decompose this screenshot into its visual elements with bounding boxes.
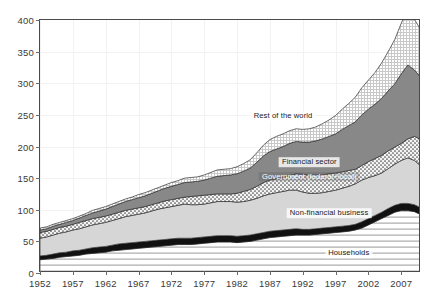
series-label: Non-financial business — [287, 208, 372, 218]
x-axis-tick-mark — [73, 271, 74, 275]
series-label: Financial sector — [279, 158, 340, 168]
series-label: Government (federal+local) — [259, 172, 360, 182]
y-axis-tick-mark — [36, 52, 40, 53]
y-axis-tick-label: 50 — [23, 236, 34, 247]
x-axis-tick-mark — [401, 271, 402, 275]
y-axis-tick-label: 200 — [18, 141, 34, 152]
x-axis-tick-label: 1967 — [128, 278, 150, 289]
y-axis-tick-mark — [36, 241, 40, 242]
x-axis-tick-label: 1987 — [259, 278, 281, 289]
y-axis-tick-mark — [36, 210, 40, 211]
x-axis-tick-label: 1957 — [62, 278, 84, 289]
x-axis-tick-mark — [237, 271, 238, 275]
plot-area: 050100150200250300350400 195219571962196… — [39, 19, 420, 272]
y-axis-tick-mark — [36, 147, 40, 148]
x-axis-tick-label: 1962 — [95, 278, 117, 289]
y-axis-tick-label: 350 — [18, 46, 34, 57]
y-axis-tick-label: 400 — [18, 15, 34, 26]
x-axis-tick-mark — [204, 271, 205, 275]
x-axis-tick-label: 2002 — [357, 278, 379, 289]
y-axis-tick-label: 100 — [18, 204, 34, 215]
x-axis-tick-mark — [368, 271, 369, 275]
stacked-area-series — [40, 20, 419, 271]
x-axis-tick-mark — [336, 271, 337, 275]
y-axis-tick-mark — [36, 83, 40, 84]
y-axis-tick-mark — [36, 115, 40, 116]
chart-figure: 050100150200250300350400 195219571962196… — [0, 0, 438, 299]
series-label: Rest of the world — [251, 111, 316, 121]
x-axis-tick-mark — [171, 271, 172, 275]
x-axis-tick-label: 2007 — [390, 278, 412, 289]
x-axis-tick-mark — [139, 271, 140, 275]
y-axis-tick-mark — [36, 20, 40, 21]
x-axis-tick-mark — [270, 271, 271, 275]
y-axis-tick-label: 250 — [18, 109, 34, 120]
y-axis-tick-label: 300 — [18, 78, 34, 89]
x-axis-tick-label: 1977 — [193, 278, 215, 289]
x-axis-tick-mark — [106, 271, 107, 275]
x-axis-tick-label: 1997 — [325, 278, 347, 289]
series-clip — [40, 20, 419, 271]
x-axis-tick-label: 1982 — [226, 278, 248, 289]
x-axis-tick-label: 1972 — [160, 278, 182, 289]
y-axis-tick-mark — [36, 178, 40, 179]
x-axis-tick-label: 1992 — [292, 278, 314, 289]
x-axis-tick-mark — [40, 271, 41, 275]
x-axis-tick-mark — [303, 271, 304, 275]
y-axis-tick-label: 0 — [29, 268, 34, 279]
series-label: Households — [325, 249, 372, 259]
y-axis-tick-label: 150 — [18, 173, 34, 184]
x-axis-tick-label: 1952 — [29, 278, 51, 289]
